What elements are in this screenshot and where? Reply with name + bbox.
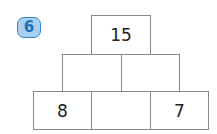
- exercise-number-badge: 6: [17, 17, 41, 38]
- pyramid-top-cell[interactable]: 15: [91, 15, 151, 55]
- pyramid-bottom-right-cell[interactable]: 7: [150, 91, 209, 130]
- pyramid-middle-left-cell[interactable]: [62, 54, 122, 92]
- pyramid-bottom-middle-cell[interactable]: [91, 91, 151, 130]
- pyramid-middle-right-cell[interactable]: [121, 54, 180, 92]
- pyramid-bottom-left-cell[interactable]: 8: [33, 91, 92, 130]
